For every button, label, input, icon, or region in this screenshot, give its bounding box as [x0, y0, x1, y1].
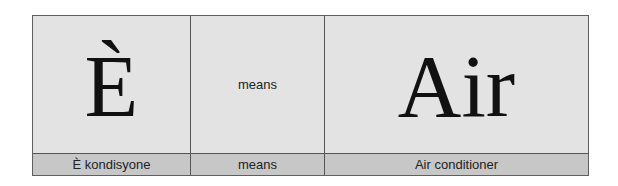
- translation-table: È means Air È kondisyone means Air condi…: [32, 15, 589, 176]
- source-phrase-cell: È kondisyone: [33, 153, 191, 175]
- source-word-cell: È: [33, 16, 191, 153]
- target-word-cell: Air: [325, 16, 588, 153]
- means-caption-cell: means: [191, 153, 325, 175]
- means-cell: means: [191, 16, 325, 153]
- target-phrase-cell: Air conditioner: [325, 153, 588, 175]
